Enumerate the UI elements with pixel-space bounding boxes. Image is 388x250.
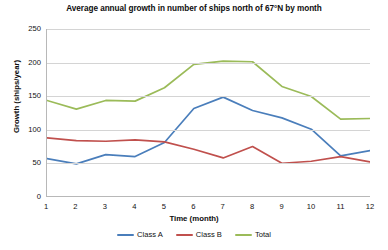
x-tick-label: 3 <box>93 203 117 211</box>
legend-item-total[interactable]: Total <box>235 231 271 239</box>
plot-area <box>46 29 370 197</box>
gridline <box>47 29 370 30</box>
y-tick-label: 0 <box>7 193 41 201</box>
gridline <box>47 130 370 131</box>
gridline <box>47 96 370 97</box>
x-tick-label: 12 <box>358 203 382 211</box>
chart-legend: Class AClass BTotal <box>0 231 388 239</box>
chart-title: Average annual growth in number of ships… <box>0 4 388 13</box>
x-tick-label: 4 <box>122 203 146 211</box>
legend-label: Class B <box>196 231 222 239</box>
x-tick-label: 5 <box>152 203 176 211</box>
x-tick-label: 2 <box>63 203 87 211</box>
x-tick-label: 11 <box>329 203 353 211</box>
x-tick-label: 10 <box>299 203 323 211</box>
y-tick-label: 50 <box>7 159 41 167</box>
legend-label: Class A <box>137 231 163 239</box>
gridline <box>47 163 370 164</box>
x-axis-label: Time (month) <box>0 214 388 223</box>
chart-container: Average annual growth in number of ships… <box>0 0 388 250</box>
y-axis-label: Growth (ships/year) <box>12 37 21 157</box>
series-lines <box>47 29 370 196</box>
x-tick-label: 6 <box>181 203 205 211</box>
legend-item-class-b[interactable]: Class B <box>176 231 222 239</box>
legend-label: Total <box>255 231 271 239</box>
legend-item-class-a[interactable]: Class A <box>117 231 163 239</box>
x-tick-label: 8 <box>240 203 264 211</box>
series-line-total <box>47 61 370 119</box>
y-tick-label: 250 <box>7 25 41 33</box>
legend-swatch-icon <box>235 234 252 236</box>
x-tick-label: 7 <box>211 203 235 211</box>
x-tick-label: 9 <box>270 203 294 211</box>
legend-swatch-icon <box>117 234 134 236</box>
gridline <box>47 63 370 64</box>
x-tick-label: 1 <box>34 203 58 211</box>
legend-swatch-icon <box>176 234 193 236</box>
series-line-class-b <box>47 138 370 163</box>
